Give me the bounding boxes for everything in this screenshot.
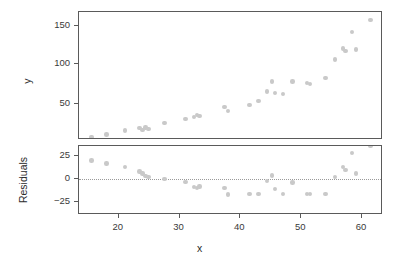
data-point [350,151,354,155]
data-point [343,168,347,172]
data-point [256,192,260,196]
xtick-mark-40 [239,214,240,218]
data-point [247,103,251,107]
data-point [343,49,347,53]
rtick-label-neg25: −25 [44,196,70,206]
rtick-mark-neg25 [74,201,78,202]
xtick-label-60: 60 [356,222,367,232]
xtick-label-20: 20 [112,222,123,232]
data-point [354,171,358,175]
data-point [183,117,187,121]
data-point [104,161,108,165]
data-point [270,173,274,177]
data-point [323,192,327,196]
data-point [162,177,166,181]
plot-area-residuals [79,146,381,213]
data-point [265,89,269,93]
data-point [146,127,150,131]
data-point [323,76,327,80]
ytick-mark-50 [74,103,78,104]
data-point [256,99,260,103]
rtick-mark-0 [74,178,78,179]
data-point [368,18,372,22]
data-point [226,109,230,113]
xtick-label-30: 30 [173,222,184,232]
data-point [308,192,312,196]
data-point [308,82,312,86]
residuals-axis-title-text: Residuals [18,157,29,203]
ytick-label-150: 150 [44,20,70,30]
xtick-label-50: 50 [295,222,306,232]
data-point [354,47,358,51]
ytick-label-50: 50 [44,98,70,108]
xtick-mark-20 [118,214,119,218]
rtick-mark-25 [74,155,78,156]
x-axis-title: x [0,243,399,254]
y-axis-title-text: y [22,78,33,83]
data-point [104,132,108,136]
scatter-panel-residuals [78,145,382,214]
data-point [146,175,150,179]
data-point [273,91,277,95]
data-point [281,92,285,96]
data-point [197,184,201,188]
ytick-mark-150 [74,25,78,26]
scatter-panel-y [78,11,382,139]
data-point [281,192,285,196]
data-point [247,192,251,196]
data-point [350,30,354,34]
data-point [89,158,93,162]
data-point [162,121,166,125]
ytick-label-100: 100 [44,58,70,68]
data-point [333,57,337,61]
data-point [270,79,274,83]
rtick-label-25: 25 [44,150,70,160]
data-point [123,165,127,169]
xtick-mark-50 [300,214,301,218]
data-point [290,79,294,83]
data-point [368,145,372,148]
data-point [123,128,127,132]
xtick-mark-60 [361,214,362,218]
xtick-label-40: 40 [234,222,245,232]
data-point [265,179,269,183]
data-point [273,187,277,191]
data-point [183,180,187,184]
plot-area-y [79,12,381,138]
data-point [222,186,226,190]
data-point [89,135,93,139]
figure-canvas: 150 100 50 y 25 0 −25 Residuals 20304050… [0,0,399,262]
data-point [290,180,294,184]
rtick-label-0: 0 [44,173,70,183]
data-point [226,192,230,196]
xtick-mark-30 [179,214,180,218]
ytick-mark-100 [74,63,78,64]
zero-reference-line [79,179,381,180]
data-point [197,114,201,118]
